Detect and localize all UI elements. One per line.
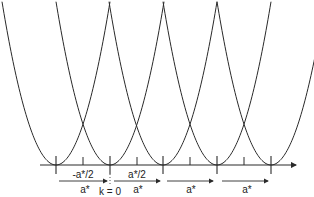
parabola-3 <box>163 2 271 165</box>
label-astar-1: a* <box>80 185 89 195</box>
label-astar-4: a* <box>242 185 251 195</box>
label-pos-half-astar: a*/2 <box>128 170 146 180</box>
parabola-1 <box>56 2 164 165</box>
label-k-zero: k = 0 <box>99 187 121 197</box>
band-diagram <box>0 0 314 197</box>
label-astar-2: a* <box>133 185 142 195</box>
parabola-4 <box>217 2 314 165</box>
parabola-0 <box>2 2 110 165</box>
label-astar-3: a* <box>186 185 195 195</box>
label-neg-half-astar: -a*/2 <box>72 170 93 180</box>
parabola-2 <box>109 2 217 165</box>
